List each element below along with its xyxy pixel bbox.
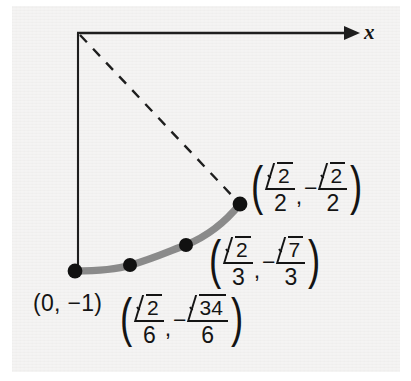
close-paren: ) xyxy=(308,242,320,278)
fraction-y-b: 73 xyxy=(277,234,306,290)
label-a-comma: , xyxy=(296,185,302,208)
fraction-y-c-numerator: 34 xyxy=(188,292,228,322)
fraction-y-c-denominator: 6 xyxy=(188,322,228,348)
radical-icon: 2 xyxy=(137,292,162,319)
point-label-a: (22,−22) xyxy=(248,159,365,215)
radicand-value: 2 xyxy=(146,294,162,319)
data-point-b xyxy=(179,238,193,252)
open-paren: ( xyxy=(120,300,132,336)
radical-icon: 2 xyxy=(226,234,251,261)
fraction-y-a: 22 xyxy=(319,160,348,216)
fraction-y-b-numerator: 7 xyxy=(277,234,306,264)
fraction-y-a-numerator: 2 xyxy=(319,160,348,190)
label-b-minus: − xyxy=(262,251,275,274)
radicand-value: 2 xyxy=(235,236,251,261)
fraction-x-c-numerator: 2 xyxy=(135,292,164,322)
fraction-x-a-denominator: 2 xyxy=(266,190,295,216)
fraction-y-b-denominator: 3 xyxy=(277,264,306,290)
label-c-minus: − xyxy=(173,309,186,332)
close-paren: ) xyxy=(350,168,362,204)
point-label-c: (26,−346) xyxy=(117,291,246,347)
point-label-b-expression: (23,−73) xyxy=(206,233,323,289)
fraction-x-a-numerator: 2 xyxy=(266,160,295,190)
radical-icon: 2 xyxy=(268,160,293,187)
radical-icon: 34 xyxy=(190,292,226,319)
open-paren: ( xyxy=(209,242,221,278)
data-point-origin xyxy=(68,264,83,279)
x-axis-arrowhead-icon xyxy=(344,26,360,40)
figure-container: x (22,−22) (23,−73) (0, −1) (26,−346) xyxy=(0,0,411,381)
radical-icon: 2 xyxy=(321,160,346,187)
radicand-value: 34 xyxy=(199,294,226,319)
data-point-c xyxy=(123,258,137,272)
x-axis-label: x xyxy=(364,22,375,43)
open-paren: ( xyxy=(251,168,263,204)
fraction-x-b: 23 xyxy=(224,234,253,290)
point-label-origin: (0, −1) xyxy=(33,292,102,315)
radicand-value: 7 xyxy=(288,236,304,261)
fraction-x-a: 22 xyxy=(266,160,295,216)
point-label-c-expression: (26,−346) xyxy=(117,291,246,347)
point-label-a-expression: (22,−22) xyxy=(248,159,365,215)
radicand-value: 2 xyxy=(277,162,293,187)
fraction-y-c: 346 xyxy=(188,292,228,348)
dashed-secant-line xyxy=(80,35,239,203)
fraction-y-a-denominator: 2 xyxy=(319,190,348,216)
label-a-minus: − xyxy=(304,177,317,200)
data-point-a xyxy=(233,197,248,212)
label-c-comma: , xyxy=(165,317,171,340)
close-paren: ) xyxy=(231,300,243,336)
fraction-x-c: 26 xyxy=(135,292,164,348)
fraction-x-b-numerator: 2 xyxy=(224,234,253,264)
radical-icon: 7 xyxy=(279,234,304,261)
radicand-value: 2 xyxy=(330,162,346,187)
point-label-b: (23,−73) xyxy=(206,233,323,289)
fraction-x-c-denominator: 6 xyxy=(135,322,164,348)
label-b-comma: , xyxy=(254,259,260,282)
